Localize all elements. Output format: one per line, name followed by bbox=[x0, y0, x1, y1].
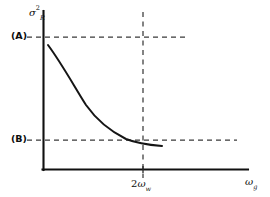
upper-level-label: (A) bbox=[11, 31, 27, 41]
x-axis-label-subscript: g bbox=[253, 183, 257, 191]
y-axis-label-superscript: 2 bbox=[36, 4, 40, 12]
x-axis-label-symbol: ω bbox=[245, 176, 253, 187]
x-axis-tick-symbol: ω bbox=[137, 178, 145, 189]
x-axis-tick-label: 2ωw bbox=[131, 174, 151, 193]
figure-container: σ2R (A) (B) 2ωw ωg bbox=[0, 0, 270, 197]
plot-canvas bbox=[0, 0, 270, 197]
y-axis-label: σ2R bbox=[29, 3, 45, 22]
y-axis-label-subscript: R bbox=[40, 14, 45, 22]
x-axis-label: ωg bbox=[245, 172, 257, 191]
variance-decay-curve bbox=[48, 45, 162, 146]
lower-level-label: (B) bbox=[11, 134, 27, 144]
x-axis-tick-subscript: w bbox=[146, 185, 152, 193]
y-axis-label-symbol: σ bbox=[29, 7, 36, 18]
